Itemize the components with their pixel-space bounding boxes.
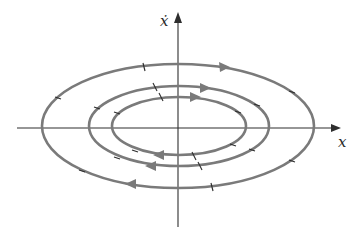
orbit-tick-marks — [55, 63, 295, 191]
arrow-right-icon — [219, 62, 230, 72]
arrow-left-icon — [125, 179, 136, 189]
arrow-left-icon — [153, 150, 164, 160]
tick — [132, 150, 138, 152]
arrow-right-icon — [200, 83, 211, 93]
arrow-right-icon — [190, 92, 201, 102]
x-axis-label: x — [338, 133, 347, 151]
tick — [114, 157, 120, 159]
y-axis-arrowhead-icon — [174, 12, 182, 23]
orbit-inner — [112, 97, 246, 155]
axes — [17, 12, 341, 227]
phase-portrait-diagram: x ẋ — [0, 0, 362, 243]
y-axis-label: ẋ — [160, 12, 169, 30]
x-axis-arrowhead-icon — [331, 124, 341, 132]
